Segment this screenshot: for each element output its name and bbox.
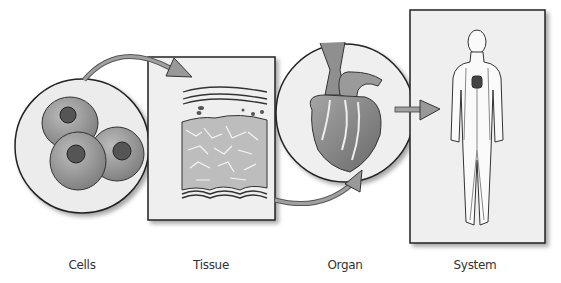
label-organ: Organ: [327, 258, 362, 272]
arrow-cells-to-tissue: [84, 56, 192, 80]
label-tissue: Tissue: [193, 258, 229, 272]
label-system: System: [454, 258, 497, 272]
label-cells: Cells: [68, 258, 95, 272]
system-panel: [410, 10, 545, 243]
tissue-panel: [148, 57, 275, 220]
organ-panel: [276, 42, 414, 182]
diagram-canvas: [0, 0, 561, 283]
cells-panel: [15, 79, 149, 213]
